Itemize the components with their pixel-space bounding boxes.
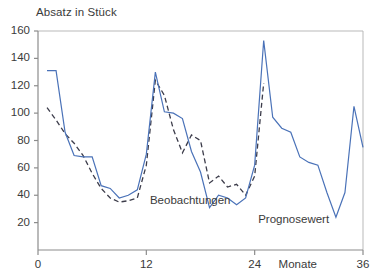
- chart-container: Absatz in Stück 20406080100120140160 012…: [0, 0, 377, 279]
- y-tick-label: 20: [0, 216, 30, 228]
- x-tick-label: 24: [240, 258, 270, 270]
- y-tick-label: 80: [0, 134, 30, 146]
- series-line-beobachtungen: [47, 80, 264, 202]
- y-tick-label: 160: [0, 24, 30, 36]
- y-tick-label: 40: [0, 188, 30, 200]
- series-label-beobachtungen: Beobachtungen: [150, 194, 231, 206]
- y-tick-label: 140: [0, 51, 30, 63]
- series-label-prognosewert: Prognosewert: [258, 213, 329, 225]
- x-axis-title: Monate: [279, 258, 317, 270]
- plot-area: [0, 0, 377, 279]
- y-tick-label: 100: [0, 106, 30, 118]
- x-tick-label: 0: [23, 258, 53, 270]
- series-line-prognosewert: [47, 41, 363, 218]
- x-tick-label: 36: [348, 258, 377, 270]
- y-tick-label: 120: [0, 79, 30, 91]
- x-axis-ticks: [38, 250, 363, 255]
- x-tick-label: 12: [131, 258, 161, 270]
- y-tick-label: 60: [0, 161, 30, 173]
